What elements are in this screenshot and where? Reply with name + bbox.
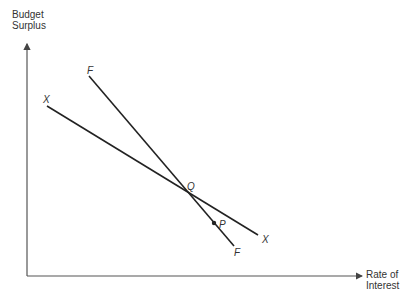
curve-x [47, 106, 258, 235]
y-axis-label: Budget Surplus [12, 9, 46, 31]
x-axis-label: Rate of Interest [366, 269, 399, 291]
x-axis-label-line2: Interest [366, 280, 399, 291]
point-p-label: P [219, 219, 226, 230]
diagram-canvas [0, 0, 416, 303]
point-p-dot [212, 221, 216, 225]
point-q-label: Q [187, 181, 195, 192]
y-axis-label-line2: Surplus [12, 20, 46, 31]
curve-f-label-top: F [87, 65, 93, 76]
curve-x-label-right: X [262, 234, 269, 245]
curve-f [89, 76, 234, 246]
y-axis-label-line1: Budget [12, 9, 46, 20]
curve-x-label-left: X [43, 94, 50, 105]
curve-f-label-bottom: F [234, 247, 240, 258]
x-axis-label-line1: Rate of [366, 269, 399, 280]
